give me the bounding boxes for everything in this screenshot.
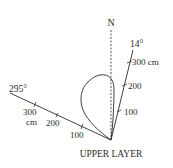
axis-295-tick-label-200: 200: [46, 118, 60, 128]
axis-14-tick-label-100: 100: [124, 107, 138, 117]
axis-295-tick-label-cm: cm: [26, 117, 37, 127]
north-label: N: [107, 17, 114, 28]
orientation-loop: [81, 75, 114, 140]
axis-295-bearing-label: 295°: [9, 84, 27, 94]
orientation-diagram: N 14° 100 200 300 cm 295° 100 200 300 cm…: [0, 0, 173, 168]
axis-14-tick-label-200: 200: [128, 81, 142, 91]
axis-14-bearing-label: 14°: [130, 39, 144, 49]
diagram-caption: UPPER LAYER: [80, 149, 143, 159]
axis-14-tick-100: [117, 110, 121, 112]
axis-14-tick-label-300: 300 cm: [132, 57, 159, 67]
axis-295-tick-label-300: 300: [23, 107, 37, 117]
axis-295-tick-label-100: 100: [70, 130, 84, 140]
